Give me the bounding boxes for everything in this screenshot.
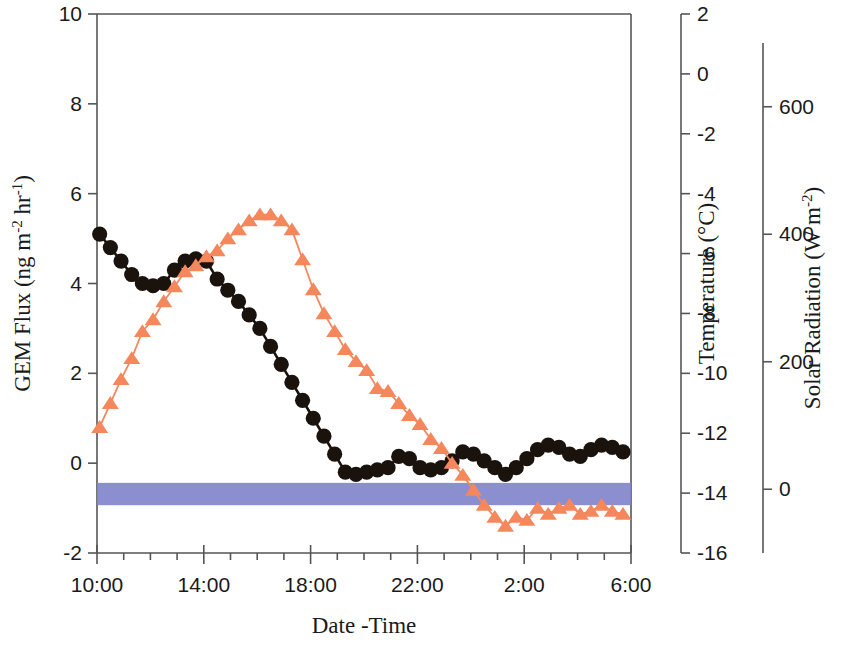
tick-label-x-2: 18:00 xyxy=(284,573,337,596)
data-point xyxy=(220,283,235,298)
data-point xyxy=(123,351,140,364)
tick-label-x-5: 6:00 xyxy=(611,573,652,596)
data-point xyxy=(305,282,322,295)
svg-text:Temperature (°C): Temperature (°C) xyxy=(694,203,719,364)
data-point xyxy=(284,375,299,390)
tick-label-left-3: 4 xyxy=(70,272,82,295)
tick-label-temperature-9: -16 xyxy=(697,541,727,564)
data-point xyxy=(348,354,365,367)
data-point xyxy=(401,408,418,421)
tick-label-left-5: 0 xyxy=(70,451,82,474)
data-point xyxy=(113,253,128,268)
svg-text:GEM Flux (ng m-2 hr-1): GEM Flux (ng m-2 hr-1) xyxy=(9,175,35,392)
tick-label-x-1: 14:00 xyxy=(178,573,231,596)
tick-label-temperature-2: -2 xyxy=(697,122,716,145)
svg-text:Solar Radiation (W m-2): Solar Radiation (W m-2) xyxy=(799,187,825,409)
tick-label-x-4: 2:00 xyxy=(504,573,545,596)
data-point xyxy=(231,294,246,309)
tick-label-left-6: -2 xyxy=(63,541,82,564)
tick-label-left-4: 2 xyxy=(70,361,82,384)
tick-label-temperature-8: -14 xyxy=(697,481,728,504)
axis-title-gem-flux: GEM Flux (ng m-2 hr-1) xyxy=(9,175,35,392)
data-point xyxy=(209,243,226,256)
data-point xyxy=(306,411,321,426)
tick-label-x-0: 10:00 xyxy=(71,573,124,596)
data-point xyxy=(274,357,289,372)
data-point xyxy=(145,312,162,325)
data-point xyxy=(380,460,395,475)
tick-label-left-0: 10 xyxy=(59,2,82,25)
data-point xyxy=(113,372,130,385)
data-point xyxy=(422,432,439,445)
data-point xyxy=(210,271,225,286)
data-point xyxy=(103,240,118,255)
tick-label-solar-0: 600 xyxy=(779,95,814,118)
tick-label-left-2: 6 xyxy=(70,182,82,205)
data-point xyxy=(252,321,267,336)
tick-label-x-3: 22:00 xyxy=(391,573,444,596)
data-point xyxy=(454,468,471,481)
data-point xyxy=(327,447,342,462)
tick-label-temperature-3: -4 xyxy=(697,182,716,205)
data-point xyxy=(486,510,503,523)
data-point xyxy=(134,324,151,337)
axis-title-x: Date -Time xyxy=(312,613,417,638)
data-point xyxy=(315,306,332,319)
data-point xyxy=(242,307,257,322)
data-point xyxy=(155,294,172,307)
data-point xyxy=(326,324,343,337)
axis-title-temperature: Temperature (°C) xyxy=(694,203,719,364)
data-point xyxy=(92,226,107,241)
data-point xyxy=(102,396,119,409)
axis-title-solar-radiation: Solar Radiation (W m-2) xyxy=(799,187,825,409)
data-point xyxy=(91,420,108,433)
tick-label-solar-3: 0 xyxy=(779,477,791,500)
data-point xyxy=(263,339,278,354)
data-point xyxy=(615,444,630,459)
chart-figure: 1086420-220-2-4-6-8-10-12-14-16600400200… xyxy=(0,0,846,646)
tick-label-left-1: 8 xyxy=(70,92,82,115)
chart-canvas: 1086420-220-2-4-6-8-10-12-14-16600400200… xyxy=(0,0,846,646)
tick-label-temperature-1: 0 xyxy=(697,62,709,85)
data-point xyxy=(295,393,310,408)
series-gem-flux xyxy=(92,226,631,482)
data-point xyxy=(337,342,354,355)
tick-label-temperature-0: 2 xyxy=(697,2,709,25)
data-point xyxy=(390,396,407,409)
series-solar-radiation-band xyxy=(97,483,631,505)
data-point xyxy=(294,252,311,265)
data-point xyxy=(316,429,331,444)
tick-label-temperature-7: -12 xyxy=(697,421,727,444)
